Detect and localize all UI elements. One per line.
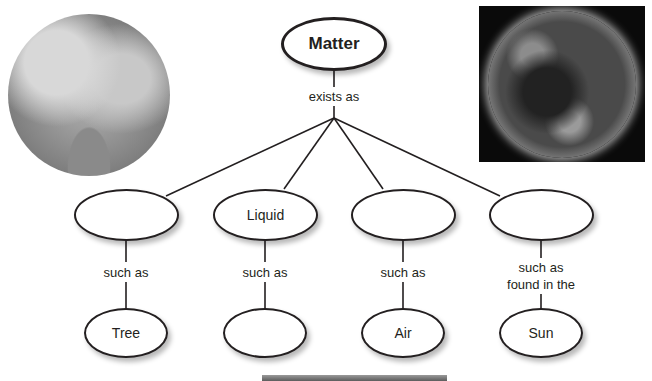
example-tree-label: Tree (112, 325, 140, 341)
bottom-bar (262, 375, 447, 381)
tree-photo (8, 14, 170, 176)
such-as-label-3: such as (379, 263, 428, 282)
such-as-line: such as (507, 259, 575, 276)
state-node-1 (74, 189, 179, 241)
example-sun-label: Sun (529, 325, 554, 341)
such-as-label-1: such as (102, 263, 151, 282)
matter-node: Matter (281, 17, 387, 71)
example-air-label: Air (394, 325, 411, 341)
state-node-liquid: Liquid (213, 189, 318, 241)
found-in-the-line: found in the (507, 276, 575, 293)
such-as-found-label: such as found in the (505, 258, 577, 294)
state-node-3 (351, 189, 456, 241)
state-node-4 (489, 189, 594, 241)
such-as-label-2: such as (241, 263, 290, 282)
example-node-2 (223, 308, 307, 358)
sun-photo (479, 6, 645, 162)
state-node-liquid-label: Liquid (247, 207, 284, 223)
sun-disc (488, 11, 636, 158)
exists-as-label: exists as (307, 87, 362, 106)
matter-label: Matter (308, 34, 359, 54)
example-node-sun: Sun (499, 308, 583, 358)
example-node-tree: Tree (84, 308, 168, 358)
example-node-air: Air (361, 308, 445, 358)
